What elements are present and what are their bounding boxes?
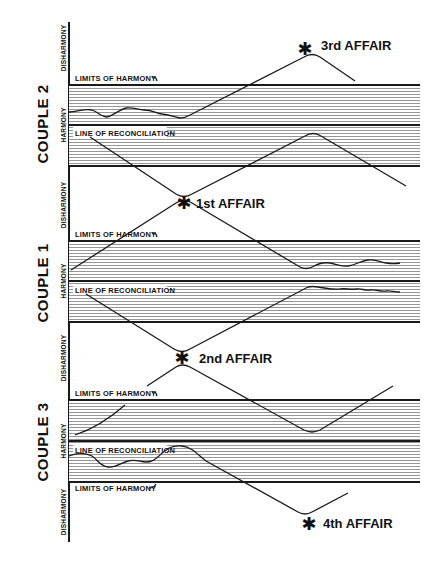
couple-1-line-of-reconciliation-label: LINE OF RECONCILIATION: [75, 286, 175, 295]
couple-2-harmony-label: HARMONY: [60, 107, 67, 142]
couple-3-limits-of-harmony-lower-label: LIMITS OF HARMONY: [75, 484, 156, 493]
couple-2-harmony-band-upper: [69, 85, 420, 125]
couple-2-line-of-reconciliation-label: LINE OF RECONCILIATION: [75, 129, 175, 138]
couple-3-disharmony-lower-label: DISHARMONY: [60, 488, 67, 535]
affair-label-3rd: 3rd AFFAIR: [321, 38, 392, 53]
affairs-harmony-diagram: COUPLE 2 DISHARMONY HARMONY LIMITS OF HA…: [0, 0, 442, 566]
couple-1-section: COUPLE 1 DISHARMONY HARMONY DISHARMONY L…: [34, 181, 420, 381]
affair-label-1st: 1st AFFAIR: [196, 196, 265, 211]
couple-1-harmony-label: HARMONY: [60, 263, 67, 298]
couple-2-disharmony-upper-label: DISHARMONY: [60, 24, 67, 71]
couple-3-line-of-reconciliation-label: LINE OF RECONCILIATION: [75, 446, 175, 455]
affair-marker-icon: ✱: [301, 513, 316, 534]
affair-label-4th: 4th AFFAIR: [323, 516, 393, 531]
couple-1-harmony-band-upper: [69, 241, 420, 281]
couple-3-harmony-label: HARMONY: [60, 423, 67, 458]
couple-1-label: COUPLE 1: [34, 243, 51, 322]
affair-marker-icon: ✱: [297, 38, 312, 59]
couple-2-limits-of-harmony-label: LIMITS OF HARMONY: [75, 74, 156, 83]
couple-3-limits-of-harmony-upper-label: LIMITS OF HARMONY: [75, 389, 156, 398]
couple-1-limits-of-harmony-label: LIMITS OF HARMONY: [75, 230, 156, 239]
couple-3-label: COUPLE 3: [34, 402, 51, 481]
couple-1-disharmony-upper-label: DISHARMONY: [60, 181, 67, 228]
couple-2-label: COUPLE 2: [34, 84, 51, 163]
affair-marker-icon: ✱: [176, 192, 191, 213]
affair-label-2nd: 2nd AFFAIR: [199, 351, 273, 366]
couple-3-harmony-band-upper: [69, 400, 420, 441]
couple-3-section: COUPLE 3 HARMONY DISHARMONY LIMITS OF HA…: [34, 365, 420, 535]
couple-2-section: COUPLE 2 DISHARMONY HARMONY LIMITS OF HA…: [34, 24, 420, 196]
couple-1-disharmony-lower-label: DISHARMONY: [60, 334, 67, 381]
